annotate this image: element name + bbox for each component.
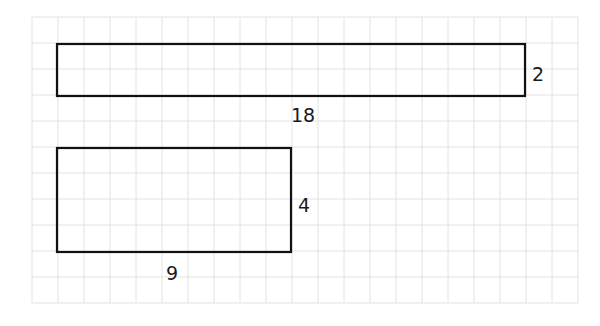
short-rectangle-width-label: 4 [298,196,310,215]
short-rectangle-length-label: 9 [166,264,178,283]
grid-paper [0,0,600,326]
short-rectangle [57,148,291,252]
long-rectangle-length-label: 18 [291,106,315,125]
long-rectangle [57,44,525,96]
long-rectangle-width-label: 2 [532,65,544,84]
